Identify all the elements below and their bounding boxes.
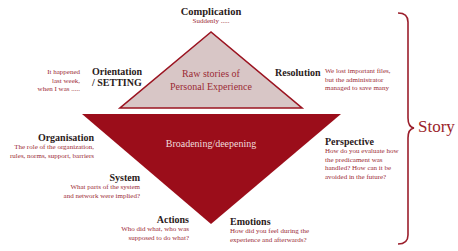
orientation-text-line: It happened [20,68,80,77]
actions-group: Actions Who did what, who was supposed t… [108,214,189,242]
orientation-title-line: Orientation [92,66,142,77]
upper-triangle-label: Raw stories of Personal Experience [151,68,271,93]
emotions-group: Emotions How did you feel during the exp… [230,216,309,244]
actions-text-line: Who did what, who was [108,225,189,234]
perspective-text-line: the predicament was [325,156,398,165]
system-text-line: and network were implied? [50,192,140,201]
lower-triangle-label: Broadening/deepening [151,138,271,151]
organisation-title: Organisation [4,132,94,143]
actions-title: Actions [108,214,189,225]
system-text-line: What parts of the system [50,183,140,192]
organisation-text-line: rules, norms, support, barriers [4,152,94,161]
perspective-text-line: handled? How can it be [325,164,398,173]
story-bracket [398,13,414,244]
perspective-text-line: avoided in the future? [325,173,398,182]
resolution-text-line: We lost important files, [325,67,391,76]
story-label: Story [418,117,455,137]
emotions-title: Emotions [230,216,309,227]
complication-text: Suddenly ..... [176,17,246,26]
orientation-title-line: / SETTING [92,77,142,88]
resolution-title: Resolution [275,67,321,78]
orientation-text: It happened last week, when I was ..... [20,68,80,94]
actions-text-line: supposed to do what? [108,234,189,243]
complication-title: Complication [176,6,246,17]
emotions-text-line: experience and afterwards? [230,236,309,245]
orientation-title: Orientation / SETTING [92,66,142,88]
perspective-text-line: How do you evaluate how [325,147,398,156]
resolution-text: We lost important files, but the adminis… [325,67,391,93]
organisation-text-line: The role of the organization, [4,143,94,152]
system-title: System [50,172,140,183]
emotions-text-line: How did you feel during the [230,227,309,236]
organisation-group: Organisation The role of the organizatio… [4,132,94,160]
system-group: System What parts of the system and netw… [50,172,140,200]
resolution-text-line: but the administrator [325,76,391,85]
diagram-shapes [0,0,458,251]
lower-triangle [82,114,341,224]
upper-triangle-line-1: Raw stories of [151,68,271,81]
perspective-title: Perspective [325,136,398,147]
upper-triangle-line-2: Personal Experience [151,81,271,94]
orientation-text-line: last week, [20,77,80,86]
complication-group: Complication Suddenly ..... [176,6,246,26]
resolution-text-line: managed to save many [325,84,391,93]
perspective-group: Perspective How do you evaluate how the … [325,136,398,181]
orientation-text-line: when I was ..... [20,85,80,94]
